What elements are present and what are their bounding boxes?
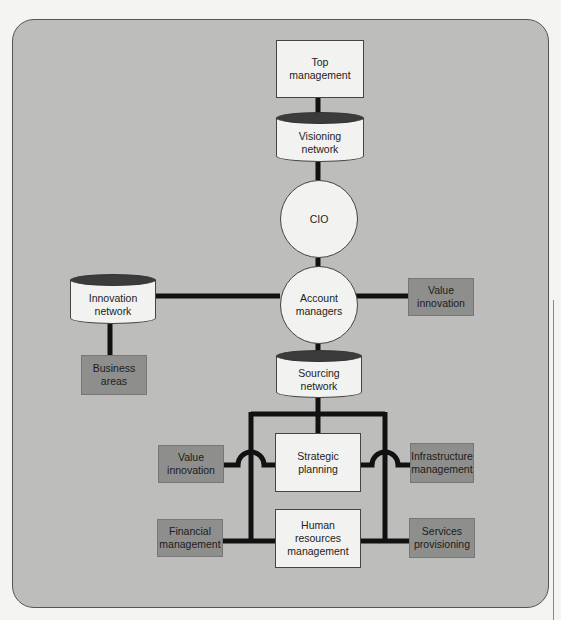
node-label: Human resources management <box>283 519 353 558</box>
node-label: Top management <box>285 56 355 82</box>
node-label: Value innovation <box>411 284 471 310</box>
node-label: Value innovation <box>161 451 221 477</box>
node-top-management[interactable]: Top management <box>276 40 364 98</box>
node-label: Account managers <box>289 292 349 318</box>
node-label: Strategic planning <box>288 450 348 476</box>
node-infrastructure-management[interactable]: Infrastructure management <box>410 443 474 483</box>
node-business-areas[interactable]: Business areas <box>81 355 147 395</box>
node-sourcing-network[interactable]: Sourcing network <box>276 356 362 398</box>
node-label: Financial management <box>159 525 221 551</box>
node-cio[interactable]: CIO <box>280 180 358 258</box>
node-label: Infrastructure management <box>411 450 473 476</box>
node-visioning-network[interactable]: Visioning network <box>276 118 364 162</box>
node-label: Sourcing network <box>289 367 349 393</box>
node-label: Business areas <box>89 362 139 388</box>
node-label: CIO <box>310 213 329 226</box>
node-services-provisioning[interactable]: Services provisioning <box>409 518 475 558</box>
node-value-innovation-right[interactable]: Value innovation <box>408 278 474 316</box>
node-innovation-network[interactable]: Innovation network <box>70 280 156 324</box>
node-label: Services provisioning <box>410 525 474 551</box>
node-human-resources-management[interactable]: Human resources management <box>275 509 361 568</box>
node-account-managers[interactable]: Account managers <box>280 266 358 344</box>
node-label: Innovation network <box>81 292 145 318</box>
node-value-innovation-left[interactable]: Value innovation <box>158 445 224 483</box>
node-financial-management[interactable]: Financial management <box>157 519 223 557</box>
node-strategic-planning[interactable]: Strategic planning <box>275 433 361 492</box>
node-label: Visioning network <box>290 130 350 156</box>
